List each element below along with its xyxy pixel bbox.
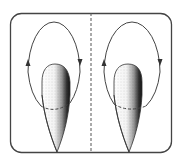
arrow-up-icon <box>102 59 107 66</box>
arrow-down-icon <box>78 59 83 66</box>
flow-loop-side-left <box>28 72 41 106</box>
flow-loop-side-right <box>146 72 160 106</box>
arrow-down-icon <box>158 59 163 66</box>
panel-right <box>102 22 163 152</box>
arrow-up-icon <box>26 59 31 66</box>
body-stipple <box>114 64 142 152</box>
panel-left <box>26 22 83 152</box>
flow-loop-side-left <box>104 72 114 104</box>
diagram <box>0 0 182 163</box>
flow-loop-side-right <box>70 72 80 103</box>
